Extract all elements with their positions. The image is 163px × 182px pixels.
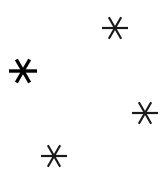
asterisk-marker-left: [9, 59, 37, 82]
asterisk-marker-bottom: [41, 145, 67, 166]
asterisk-marker-right: [132, 102, 158, 123]
asterisk-marker-top-right: [102, 17, 128, 38]
asterisk-figure: [0, 0, 163, 182]
